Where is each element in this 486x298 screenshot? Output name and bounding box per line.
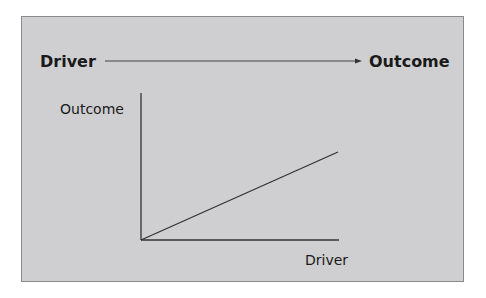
relationship-line [141, 152, 338, 240]
x-axis-label: Driver [305, 252, 348, 268]
arrow-right-icon [105, 59, 362, 64]
diagram-lines [0, 0, 486, 298]
y-axis-label: Outcome [60, 101, 124, 117]
